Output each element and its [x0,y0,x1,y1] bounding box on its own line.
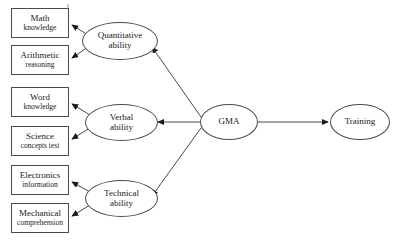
edge-gma-to-quantitative-ability [152,47,201,117]
node-label-line2: knowledge [24,24,57,32]
node-electronics-information[interactable]: Electronics information [11,165,69,195]
node-quantitative-ability[interactable]: Quantitative ability [82,22,158,60]
edge-gma-to-technical-ability [152,128,201,196]
node-label-line2: knowledge [24,103,57,111]
node-mechanical-comprehension[interactable]: Mechanical comprehension [11,203,69,233]
node-label-line2: reasoning [25,61,54,69]
node-label-line1: Training [345,117,376,127]
node-label-line2: information [22,181,57,189]
node-science-concepts-test[interactable]: Science concepts test [11,126,69,156]
node-math-knowledge[interactable]: Math knowledge [11,8,69,38]
node-technical-ability[interactable]: Technical ability [85,180,158,217]
node-label-line1: GMA [218,117,239,127]
path-diagram-canvas: Math knowledge Arithmetic reasoning Word… [0,0,395,244]
edge-verbal-to-word-knowledge [72,104,90,115]
node-label-line2: ability [110,199,133,209]
node-label-line2: ability [110,123,133,133]
edge-technical-to-mechanical-comprehension [72,205,90,216]
node-label-line2: concepts test [21,142,60,150]
node-arithmetic-reasoning[interactable]: Arithmetic reasoning [11,45,69,75]
node-word-knowledge[interactable]: Word knowledge [11,87,69,117]
node-verbal-ability[interactable]: Verbal ability [85,104,158,141]
node-label-line2: ability [109,41,132,51]
node-training[interactable]: Training [330,104,390,140]
node-gma[interactable]: GMA [200,104,258,140]
node-label-line2: comprehension [17,219,63,227]
